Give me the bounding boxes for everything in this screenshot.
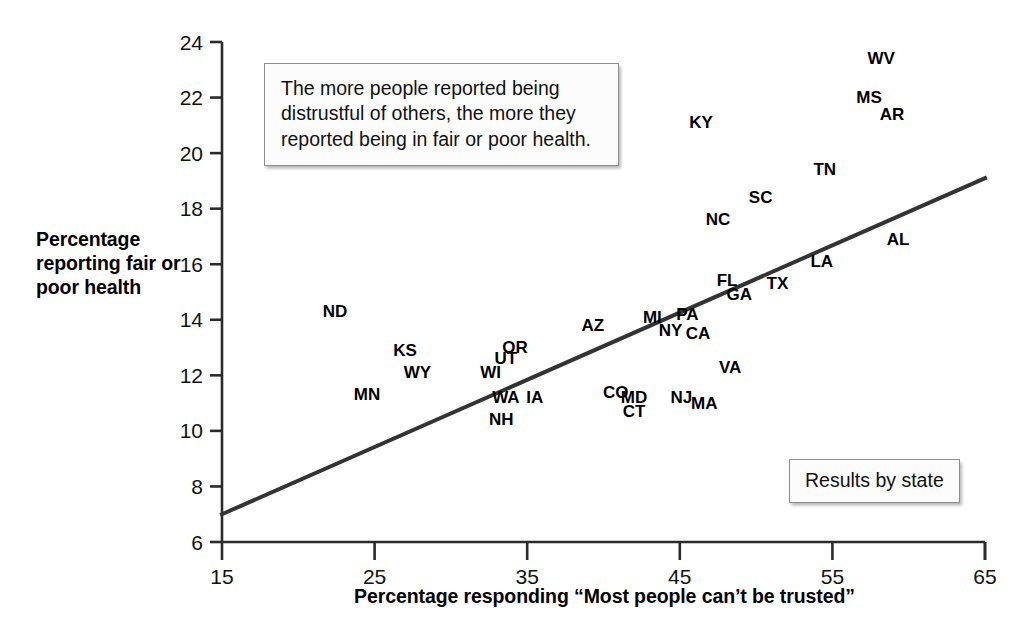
state-label-ny: NY xyxy=(659,321,683,340)
state-label-ia: IA xyxy=(526,388,543,407)
y-tick-label: 18 xyxy=(180,197,203,220)
state-label-tn: TN xyxy=(813,160,836,179)
scatter-plot-figure: 681012141618202224 152535455565 NDMNKSWY… xyxy=(0,0,1025,630)
state-label-ct: CT xyxy=(623,402,646,421)
state-label-la: LA xyxy=(810,252,833,271)
state-label-nd: ND xyxy=(323,302,348,321)
y-tick-label: 8 xyxy=(191,475,203,498)
y-tick-label: 14 xyxy=(180,308,204,331)
state-label-ky: KY xyxy=(689,113,713,132)
state-label-nj: NJ xyxy=(670,388,692,407)
state-label-ar: AR xyxy=(880,105,905,124)
state-label-ga: GA xyxy=(727,285,753,304)
x-axis-title: Percentage responding “Most people can’t… xyxy=(222,585,987,609)
state-label-ms: MS xyxy=(856,88,882,107)
state-label-nc: NC xyxy=(706,210,731,229)
annotation-callout: The more people reported being distrustf… xyxy=(264,63,619,166)
state-label-wv: WV xyxy=(868,49,896,68)
state-label-sc: SC xyxy=(749,188,773,207)
state-label-nh: NH xyxy=(489,410,514,429)
y-tick-label: 24 xyxy=(180,31,204,54)
y-axis-title: Percentage reporting fair or poor health xyxy=(36,228,211,299)
state-label-wy: WY xyxy=(404,363,432,382)
state-label-al: AL xyxy=(887,230,910,249)
legend-callout: Results by state xyxy=(789,459,960,503)
state-label-ks: KS xyxy=(393,341,417,360)
state-label-ca: CA xyxy=(686,324,711,343)
state-label-tx: TX xyxy=(767,274,789,293)
y-tick-label: 6 xyxy=(191,531,203,554)
y-tick-label: 10 xyxy=(180,419,203,442)
state-label-pa: PA xyxy=(676,305,698,324)
y-tick-label: 20 xyxy=(180,142,203,165)
state-label-or: OR xyxy=(502,338,528,357)
y-tick-label: 22 xyxy=(180,86,203,109)
state-label-mn: MN xyxy=(354,385,380,404)
state-label-va: VA xyxy=(719,358,741,377)
state-label-wa: WA xyxy=(492,388,519,407)
state-label-az: AZ xyxy=(581,316,604,335)
x-axis-ticks: 152535455565 xyxy=(210,542,996,588)
state-label-ma: MA xyxy=(691,394,717,413)
y-tick-label: 12 xyxy=(180,364,203,387)
